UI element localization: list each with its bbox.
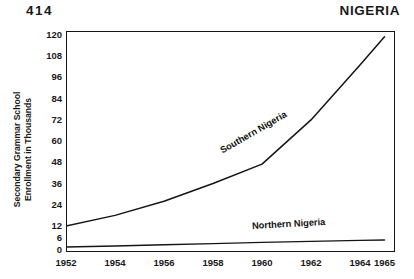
x-axis-tick-label: 1952 [44, 257, 88, 268]
y-axis-tick-label: 60 [0, 136, 62, 146]
y-axis-tick-label: 120 [0, 30, 62, 40]
chart-figure: 414 NIGERIA Secondary Grammar School Enr… [0, 0, 414, 279]
y-axis-tick-label: 48 [0, 157, 62, 167]
y-axis-tick-label: 108 [0, 51, 62, 61]
x-axis-tick-label: 1956 [142, 257, 186, 268]
series-line-southern [66, 37, 385, 226]
y-axis-tick-label: 72 [0, 115, 62, 125]
x-axis-tick-label: 1954 [93, 257, 137, 268]
y-axis-tick-label: 24 [0, 200, 62, 210]
page-header: 414 NIGERIA [0, 0, 414, 26]
y-axis-tick-labels: 120108968472604836241260 [0, 0, 62, 279]
x-axis-tick-label: 1960 [240, 257, 284, 268]
y-axis-tick-label: 84 [0, 94, 62, 104]
y-axis-tick-label: 0 [0, 245, 62, 255]
y-axis-tick-label: 96 [0, 72, 62, 82]
page-title: NIGERIA [340, 3, 400, 18]
y-axis-tick-label: 36 [0, 179, 62, 189]
x-axis-tick-labels: 19521954195619581960196219641965 [0, 257, 414, 275]
x-axis-tick-label: 1962 [289, 257, 333, 268]
y-axis-tick-label: 6 [0, 233, 62, 243]
series-line-northern [66, 240, 385, 247]
x-axis-tick-label: 1958 [191, 257, 235, 268]
x-axis-tick-label: 1965 [363, 257, 407, 268]
y-axis-tick-label: 12 [0, 221, 62, 231]
